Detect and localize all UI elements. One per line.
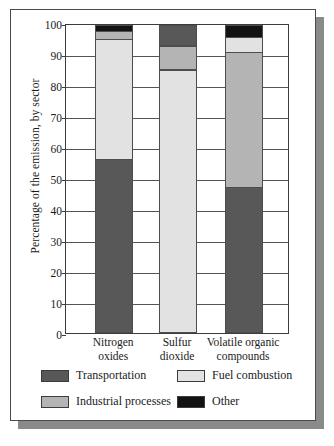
y-axis-title: Percentage of the emission, by sector (29, 56, 41, 276)
bar-segment-fuel-combustion[interactable] (95, 39, 133, 160)
legend-label: Fuel combustion (212, 368, 292, 383)
bar-segment-transportation[interactable] (95, 159, 133, 333)
plot-wrapper: Percentage of the emission, by sector 01… (11, 10, 317, 422)
legend-swatch (177, 396, 205, 408)
legend-item-other[interactable]: Other (177, 394, 299, 409)
y-axis-tick (62, 87, 66, 88)
bar-segment-transportation[interactable] (225, 187, 263, 333)
y-axis-tick-label: 20 (51, 267, 63, 279)
legend-item-transportation[interactable]: Transportation (41, 368, 171, 383)
legend-label: Other (212, 394, 239, 409)
bar-segment-industrial-processes[interactable] (225, 52, 263, 188)
y-axis-tick (62, 56, 66, 57)
y-axis-tick-label: 80 (51, 81, 63, 93)
y-axis-tick (62, 211, 66, 212)
x-axis-label-volatile-organic-compounds: Volatile organiccompounds (183, 336, 303, 363)
legend-item-fuel-combustion[interactable]: Fuel combustion (177, 368, 299, 383)
y-axis-tick-label: 40 (51, 205, 63, 217)
legend-swatch (177, 370, 205, 382)
y-axis-tick (62, 242, 66, 243)
y-axis-tick (62, 149, 66, 150)
bar-segment-fuel-combustion[interactable] (159, 70, 197, 334)
y-axis-tick (62, 25, 66, 26)
plot-area: 0102030405060708090100 (65, 24, 289, 334)
legend-swatch (41, 370, 69, 382)
y-axis-tick (62, 273, 66, 274)
y-axis-tick-label: 70 (51, 112, 63, 124)
bar-nitrogen-oxides[interactable] (95, 23, 133, 333)
chart-card: Percentage of the emission, by sector 01… (10, 9, 316, 421)
bar-sulfur-dioxide[interactable] (159, 23, 197, 333)
bar-volatile-organic-compounds[interactable] (225, 23, 263, 333)
bar-segment-industrial-processes[interactable] (159, 46, 197, 71)
y-axis-tick (62, 118, 66, 119)
chart-legend: TransportationFuel combustionIndustrial … (41, 368, 299, 409)
y-axis-tick-label: 100 (45, 19, 62, 31)
legend-item-industrial-processes[interactable]: Industrial processes (41, 394, 171, 409)
y-axis-tick-label: 60 (51, 143, 63, 155)
legend-label: Industrial processes (76, 394, 171, 409)
legend-swatch (41, 396, 69, 408)
bar-segment-other[interactable] (225, 25, 263, 37)
y-axis-tick (62, 304, 66, 305)
y-axis-tick-label: 50 (51, 174, 63, 186)
y-axis-tick-label: 90 (51, 50, 63, 62)
legend-label: Transportation (76, 368, 146, 383)
bar-segment-transportation[interactable] (159, 25, 197, 47)
y-axis-tick (62, 180, 66, 181)
bar-segment-fuel-combustion[interactable] (225, 37, 263, 53)
y-axis-tick-label: 10 (51, 298, 63, 310)
chart-page: Percentage of the emission, by sector 01… (0, 0, 334, 446)
y-axis-tick-label: 30 (51, 236, 63, 248)
